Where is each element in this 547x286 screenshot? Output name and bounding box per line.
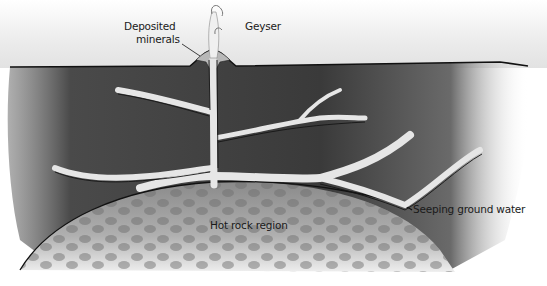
label-seeping-ground-water: Seeping ground water bbox=[413, 203, 525, 215]
label-deposited-minerals-1: Deposited bbox=[124, 20, 175, 32]
label-hot-rock-region: Hot rock region bbox=[210, 219, 288, 231]
geyser-diagram: Deposited minerals Geyser Hot rock regio… bbox=[0, 0, 547, 286]
sky bbox=[0, 0, 547, 68]
label-geyser: Geyser bbox=[245, 20, 281, 32]
geyser-illustration bbox=[0, 0, 547, 286]
label-deposited-minerals-2: minerals bbox=[136, 33, 180, 45]
